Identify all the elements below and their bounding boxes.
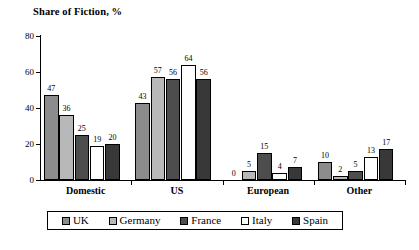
bar-value-label: 64: [177, 55, 200, 63]
bar-spain-domestic: [105, 144, 120, 180]
category-label-us: US: [131, 185, 222, 196]
category-label-european: European: [223, 185, 314, 196]
bar-value-label: 56: [192, 69, 215, 77]
bar-value-label: 17: [375, 139, 398, 147]
legend-label: France: [191, 215, 221, 226]
bar-uk-us: [135, 103, 150, 180]
y-axis-label: 80: [0, 32, 34, 41]
bar-germany-other: [333, 176, 348, 180]
legend-item-italy[interactable]: Italy: [241, 215, 272, 226]
legend-swatch-icon: [241, 217, 249, 225]
bar-value-label: 15: [253, 143, 276, 151]
legend-item-spain[interactable]: Spain: [292, 215, 328, 226]
category-label-domestic: Domestic: [40, 185, 131, 196]
bar-value-label: 36: [55, 105, 78, 113]
legend-item-uk[interactable]: UK: [62, 215, 89, 226]
legend-item-germany[interactable]: Germany: [109, 215, 161, 226]
chart-title: Share of Fiction, %: [33, 6, 122, 17]
y-axis-label: 0: [0, 176, 34, 185]
bar-italy-us: [181, 65, 196, 180]
bar-italy-domestic: [90, 146, 105, 180]
fiction-share-bar-chart: Share of Fiction, % 020406080 4736251920…: [0, 0, 419, 250]
legend-label: Spain: [303, 215, 328, 226]
legend-swatch-icon: [109, 217, 117, 225]
y-axis-label: 60: [0, 68, 34, 77]
legend-label: Italy: [252, 215, 272, 226]
bar-france-us: [166, 79, 181, 180]
bar-germany-european: [242, 171, 257, 180]
y-axis-label: 20: [0, 140, 34, 149]
bar-value-label: 47: [40, 85, 63, 93]
category-label-other: Other: [314, 185, 405, 196]
legend-item-france[interactable]: France: [180, 215, 221, 226]
bar-value-label: 10: [314, 152, 337, 160]
x-axis-group-separator: [405, 181, 406, 185]
plot-area: 4736251920435756645605154710251317: [40, 36, 405, 180]
bar-italy-european: [272, 173, 287, 180]
chart-legend: UKGermanyFranceItalySpain: [47, 211, 343, 230]
y-axis-label: 40: [0, 104, 34, 113]
legend-swatch-icon: [62, 217, 70, 225]
legend-label: UK: [73, 215, 89, 226]
bar-value-label: 20: [101, 134, 124, 142]
bar-spain-other: [379, 149, 394, 180]
legend-label: Germany: [120, 215, 161, 226]
bar-france-other: [348, 171, 363, 180]
legend-swatch-icon: [180, 217, 188, 225]
bar-value-label: 25: [71, 125, 94, 133]
bar-spain-us: [196, 79, 211, 180]
bar-germany-us: [151, 77, 166, 180]
legend-swatch-icon: [292, 217, 300, 225]
y-axis-tick: [36, 180, 40, 181]
bar-spain-european: [288, 167, 303, 180]
bar-italy-other: [364, 157, 379, 180]
bar-value-label: 7: [284, 157, 307, 165]
